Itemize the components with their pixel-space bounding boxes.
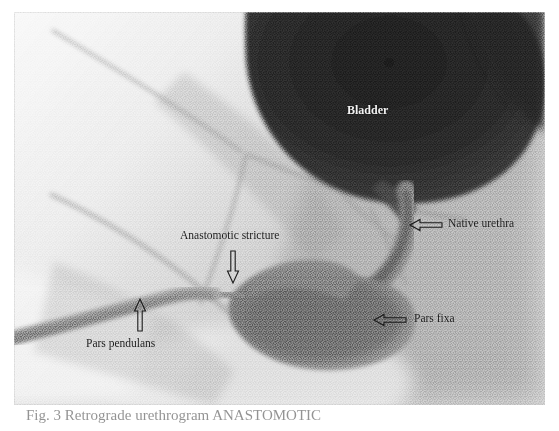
radiograph-canvas [14,12,545,405]
radiograph-image [14,12,545,405]
figure-root: Bladder Native urethra Anastomotic stric… [0,0,559,431]
figure-caption-clip: Fig. 3 Retrograde urethrogram ANASTOMOTI… [0,409,559,431]
figure-caption: Fig. 3 Retrograde urethrogram ANASTOMOTI… [26,409,321,424]
